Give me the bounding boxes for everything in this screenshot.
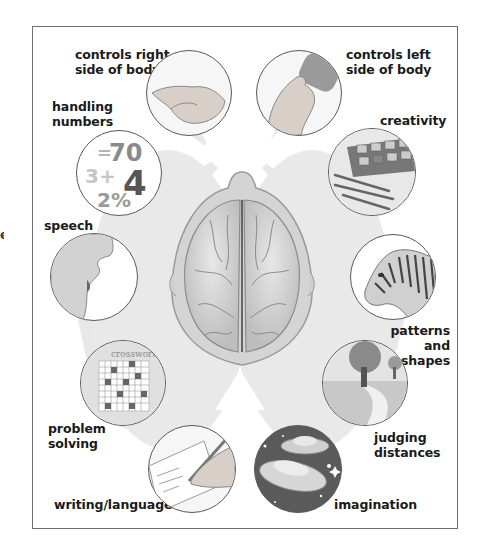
label-controls-left-side: controls left side of body <box>346 47 431 77</box>
crossword-icon: crossword <box>80 340 166 426</box>
svg-text:2%: 2% <box>97 188 131 212</box>
label-creativity: creativity <box>380 113 442 128</box>
numbers-icon: = 70 3+ 4 2% <box>76 130 162 216</box>
crossword-title: crossword <box>111 349 158 359</box>
zebra-icon <box>350 234 436 320</box>
label-speech: speech <box>44 218 93 233</box>
pinching-hand-icon <box>146 50 232 136</box>
svg-text:3+: 3+ <box>85 164 116 188</box>
hand-holding-eraser-icon <box>256 50 342 136</box>
label-imagination: imagination <box>334 497 417 512</box>
paint-palette-icon <box>328 128 416 216</box>
label-handling-numbers: handling numbers <box>52 99 113 129</box>
mouth-speaking-icon <box>50 233 138 321</box>
label-judging-distances: judging distances <box>374 430 440 460</box>
label-problem-solving: problem solving <box>48 421 106 451</box>
hand-writing-icon <box>148 425 236 513</box>
landscape-path-icon <box>322 340 408 426</box>
flying-saucer-icon <box>254 425 342 513</box>
